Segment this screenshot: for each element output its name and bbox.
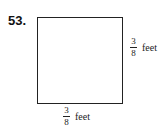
- square-shape: [37, 17, 123, 104]
- bottom-side-label: 3 8 feet: [63, 106, 90, 127]
- numerator: 3: [131, 37, 136, 46]
- unit-label: feet: [142, 42, 157, 53]
- problem-number: 53.: [8, 13, 26, 28]
- unit-label: feet: [75, 111, 90, 122]
- fraction: 3 8: [63, 106, 70, 127]
- fraction: 3 8: [130, 37, 137, 58]
- right-side-label: 3 8 feet: [130, 37, 157, 58]
- denominator: 8: [131, 49, 136, 58]
- numerator: 3: [64, 106, 69, 115]
- denominator: 8: [64, 118, 69, 127]
